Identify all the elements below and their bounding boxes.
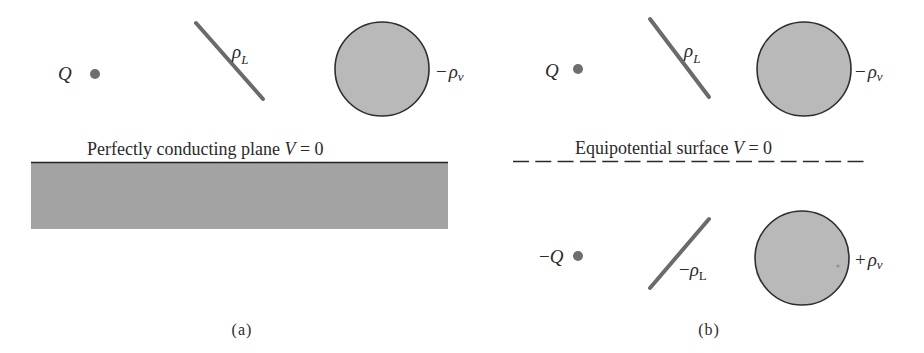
volume-charge-sphere: −ρv xyxy=(757,22,883,116)
conducting-plane-caption: Perfectly conducting plane V = 0 xyxy=(87,139,324,159)
sphere-icon xyxy=(335,22,429,116)
image-line-charge-label: −ρL xyxy=(679,259,707,283)
image-point-charge: −Q xyxy=(539,246,583,267)
plane-body xyxy=(31,162,448,229)
panel-a-label: (a) xyxy=(232,321,253,339)
conducting-plane xyxy=(31,162,448,229)
point-charge-q: Q xyxy=(58,63,100,84)
panel-b: Q ρL −ρv Equipotential surface V = 0 −Q … xyxy=(513,19,883,339)
line-charge: ρL xyxy=(196,23,263,99)
volume-charge-label: −ρv xyxy=(855,61,883,84)
image-point-charge-dot-icon xyxy=(573,251,583,261)
image-theory-figure: Q ρL −ρv Perfectly conducting plane V = … xyxy=(0,0,924,353)
line-charge: ρL xyxy=(650,19,709,97)
line-charge-label: ρL xyxy=(683,40,700,66)
image-sphere-icon xyxy=(755,211,849,305)
point-charge-label: Q xyxy=(545,60,559,81)
point-charge-dot-icon xyxy=(90,69,100,79)
volume-charge-label: −ρv xyxy=(436,61,464,84)
line-charge-segment-icon xyxy=(196,23,263,99)
volume-charge-sphere: −ρv xyxy=(335,22,464,116)
image-volume-charge-sphere: +ρv xyxy=(755,211,883,305)
equipotential-surface-caption: Equipotential surface V = 0 xyxy=(575,138,772,158)
point-charge-label: Q xyxy=(58,63,72,84)
sphere-speck xyxy=(837,265,840,268)
panel-a: Q ρL −ρv Perfectly conducting plane V = … xyxy=(31,22,464,339)
image-point-charge-label: −Q xyxy=(539,246,564,267)
point-charge-q: Q xyxy=(545,60,583,81)
panel-b-label: (b) xyxy=(698,321,720,339)
image-volume-charge-label: +ρv xyxy=(855,249,883,272)
image-line-charge: −ρL xyxy=(650,219,709,288)
point-charge-dot-icon xyxy=(573,64,583,74)
sphere-icon xyxy=(757,22,851,116)
